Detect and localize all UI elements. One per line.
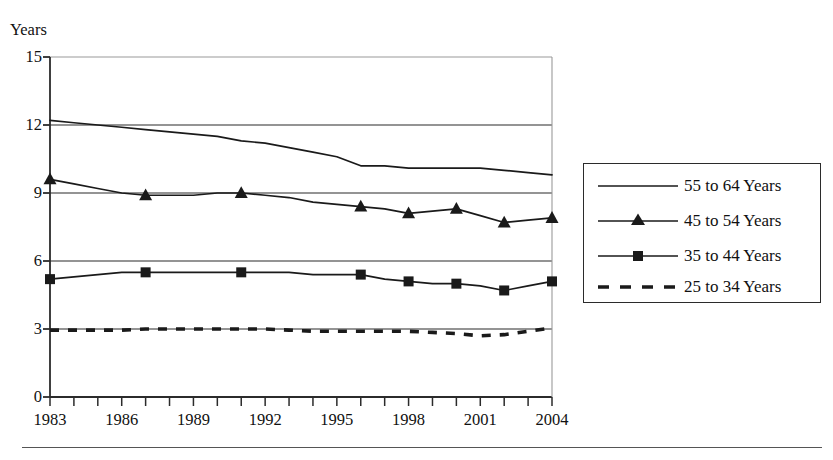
x-axis-tick-label: 1995 (307, 412, 367, 429)
series-lines (50, 120, 552, 335)
legend-entry: 35 to 44 Years (584, 238, 820, 273)
x-axis-tick-label: 1989 (163, 412, 223, 429)
gridlines (50, 57, 552, 397)
legend-sample-triangle-icon (596, 209, 680, 233)
x-axis-ticks (50, 397, 552, 406)
legend-sample-line-icon (596, 174, 680, 198)
legend-sample-dashed-icon (596, 275, 680, 299)
legend-label: 25 to 34 Years (684, 278, 781, 295)
x-axis-tick-label: 2004 (522, 412, 582, 429)
legend-label: 35 to 44 Years (684, 247, 781, 264)
y-axis-ticks (43, 57, 50, 397)
legend-entry: 25 to 34 Years (584, 269, 820, 304)
x-axis-tick-label: 1986 (92, 412, 152, 429)
y-axis-tick-label: 6 (8, 253, 42, 270)
chart-figure: Years 03691215 1983198619891992199519982… (0, 0, 833, 460)
legend-label: 55 to 64 Years (684, 177, 781, 194)
y-axis-tick-label: 3 (8, 321, 42, 338)
y-axis-tick-label: 9 (8, 185, 42, 202)
series-markers (44, 173, 559, 296)
legend-entry: 45 to 54 Years (584, 203, 820, 238)
x-axis-tick-label: 1998 (379, 412, 439, 429)
y-axis-tick-label: 12 (8, 117, 42, 134)
footer-divider (22, 447, 822, 448)
x-axis-tick-label: 1983 (20, 412, 80, 429)
x-axis-tick-label: 1992 (235, 412, 295, 429)
legend-entry: 55 to 64 Years (584, 168, 820, 203)
y-axis-tick-label: 0 (8, 389, 42, 406)
chart-legend: 55 to 64 Years 45 to 54 Years 35 to 44 Y… (583, 163, 821, 303)
legend-label: 45 to 54 Years (684, 212, 781, 229)
plot-frame (50, 57, 552, 397)
legend-sample-square-icon (596, 244, 680, 268)
x-axis-tick-label: 2001 (450, 412, 510, 429)
y-axis-tick-label: 15 (8, 49, 42, 66)
